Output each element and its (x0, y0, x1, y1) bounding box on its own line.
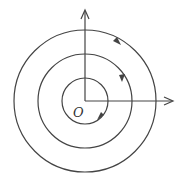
orbit-outer-arrow-icon (113, 37, 121, 45)
origin-label: O (73, 105, 84, 120)
phase-portrait-diagram: O (0, 0, 182, 186)
orbit-middle-arrow-icon (119, 74, 125, 82)
